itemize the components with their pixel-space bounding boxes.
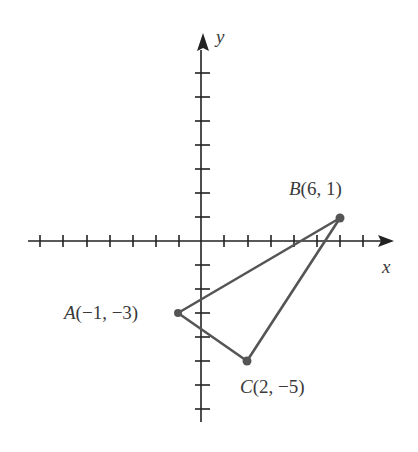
coordinate-plane: y x B(6, 1) A(−1, −3) C(2, −5) [0, 0, 418, 452]
x-axis-label: x [381, 256, 391, 277]
y-axis-label: y [214, 26, 225, 47]
point-c-label: C(2, −5) [240, 376, 305, 398]
x-axis [28, 235, 385, 247]
point-a [174, 309, 182, 317]
point-b [336, 214, 345, 223]
y-axis-arrow-icon [197, 33, 209, 51]
point-b-label: B(6, 1) [289, 178, 342, 200]
point-c [243, 357, 252, 366]
point-a-label: A(−1, −3) [62, 302, 138, 324]
y-axis [195, 50, 210, 422]
